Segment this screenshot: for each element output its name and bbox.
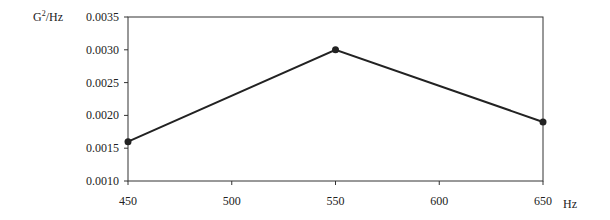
series-line xyxy=(128,50,543,142)
x-tick-label: 650 xyxy=(534,194,552,208)
psd-line-chart: 0.00100.00150.00200.00250.00300.0035 450… xyxy=(0,0,610,220)
x-axis-ticks: 450500550600650 xyxy=(119,181,552,208)
x-tick-label: 600 xyxy=(430,194,448,208)
y-axis-label: G2/Hz xyxy=(33,9,63,24)
y-tick-label: 0.0010 xyxy=(86,174,119,188)
data-point-marker xyxy=(125,138,132,145)
x-tick-label: 450 xyxy=(119,194,137,208)
x-tick-label: 500 xyxy=(223,194,241,208)
data-series xyxy=(125,46,547,145)
y-tick-label: 0.0020 xyxy=(86,108,119,122)
y-tick-label: 0.0025 xyxy=(86,76,119,90)
y-axis-ticks: 0.00100.00150.00200.00250.00300.0035 xyxy=(86,10,128,188)
y-tick-label: 0.0030 xyxy=(86,43,119,57)
y-tick-label: 0.0015 xyxy=(86,141,119,155)
plot-border xyxy=(128,17,543,181)
x-tick-label: 550 xyxy=(327,194,345,208)
plot-frame xyxy=(128,17,543,181)
data-point-marker xyxy=(332,46,339,53)
x-axis-label: Hz xyxy=(563,197,577,211)
data-point-marker xyxy=(540,118,547,125)
y-tick-label: 0.0035 xyxy=(86,10,119,24)
